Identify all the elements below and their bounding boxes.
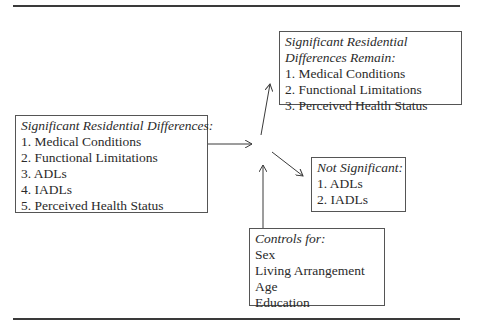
list-item: 3. ADLs bbox=[21, 166, 202, 182]
significant-differences-box: Significant Residential Differences: 1. … bbox=[15, 115, 208, 213]
list-item: Age bbox=[255, 279, 379, 295]
list-item: 3. Perceived Health Status bbox=[285, 98, 456, 114]
list-item: Education bbox=[255, 295, 379, 311]
list-item: 2. Functional Limitations bbox=[21, 150, 202, 166]
box-heading-line1: Significant Residential bbox=[285, 34, 456, 50]
box-heading: Not Significant: bbox=[317, 160, 400, 176]
arrow-to-not-significant bbox=[272, 152, 303, 176]
list-item: Sex bbox=[255, 247, 379, 263]
differences-remain-box: Significant Residential Differences Rema… bbox=[279, 31, 462, 105]
not-significant-box: Not Significant: 1. ADLs 2. IADLs bbox=[311, 157, 406, 212]
list-item: 5. Perceived Health Status bbox=[21, 198, 202, 214]
list-item: 1. Medical Conditions bbox=[285, 66, 456, 82]
list-item: Living Arrangement bbox=[255, 263, 379, 279]
list-item: 2. IADLs bbox=[317, 192, 400, 208]
arrow-to-remain bbox=[261, 84, 270, 135]
list-item: 1. Medical Conditions bbox=[21, 134, 202, 150]
list-item: 2. Functional Limitations bbox=[285, 82, 456, 98]
list-item: 4. IADLs bbox=[21, 182, 202, 198]
box-heading: Significant Residential Differences: bbox=[21, 118, 202, 134]
box-heading-line2: Differences Remain: bbox=[285, 50, 456, 66]
box-heading: Controls for: bbox=[255, 231, 379, 247]
list-item: 1. ADLs bbox=[317, 176, 400, 192]
controls-box: Controls for: Sex Living Arrangement Age… bbox=[249, 228, 385, 306]
